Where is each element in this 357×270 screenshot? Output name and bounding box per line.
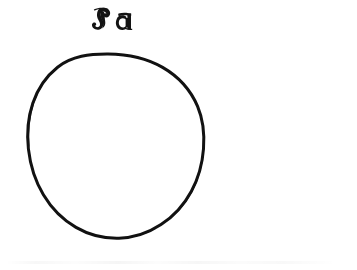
fraktur-letter-a [116,13,132,30]
figure-drawing: Ja [0,0,357,270]
figure-label: Ja [0,0,132,30]
outline-circle [28,54,204,238]
figure-plate: Ja [0,0,357,270]
fraktur-letter-J [92,8,110,30]
figure-label-text: Ja [0,0,13,3]
